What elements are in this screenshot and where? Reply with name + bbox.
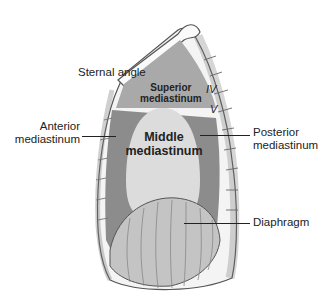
label-superior-mediastinum: Superior mediastinum bbox=[140, 82, 202, 104]
label-sternal-angle: Sternal angle bbox=[78, 66, 146, 79]
label-vertebra-v: V bbox=[210, 103, 217, 116]
label-anterior-mediastinum: Anterior mediastinum bbox=[6, 120, 80, 146]
label-vertebra-iv: IV bbox=[206, 83, 216, 96]
leader-line-anterior bbox=[82, 136, 116, 137]
label-posterior-mediastinum: Posterior mediastinum bbox=[253, 126, 318, 152]
leader-line-posterior bbox=[200, 135, 250, 136]
leader-line-diaphragm bbox=[184, 223, 250, 224]
label-middle-mediastinum: Middle mediastinum bbox=[124, 130, 204, 158]
label-diaphragm: Diaphragm bbox=[253, 216, 309, 229]
